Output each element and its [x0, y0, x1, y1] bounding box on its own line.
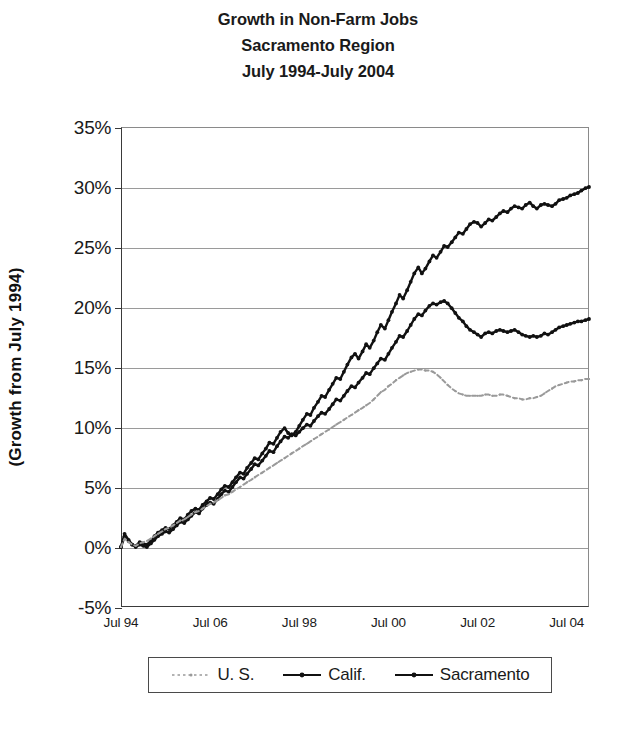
series-marker	[588, 378, 590, 380]
series-marker	[182, 521, 186, 525]
series-marker	[528, 201, 532, 205]
series-marker	[338, 399, 342, 403]
series-marker	[435, 256, 439, 260]
series-marker	[245, 466, 249, 470]
y-axis-tick-label: 30%	[74, 177, 111, 199]
series-marker	[219, 492, 223, 496]
series-marker	[424, 267, 428, 271]
series-marker	[372, 339, 376, 343]
series-marker	[272, 442, 276, 446]
series-marker	[483, 221, 487, 225]
series-marker	[517, 206, 521, 210]
series-marker	[179, 520, 181, 522]
series-marker	[524, 334, 528, 338]
series-marker	[253, 462, 257, 466]
series-marker	[387, 318, 391, 322]
legend-label: Calif.	[328, 665, 366, 685]
series-marker	[490, 332, 494, 336]
series-marker	[357, 409, 359, 411]
y-axis-title: (Growth from July 1994)	[6, 267, 26, 466]
series-marker	[502, 209, 506, 213]
series-marker	[316, 400, 320, 404]
series-marker	[208, 496, 212, 500]
series-marker	[261, 472, 263, 474]
series-marker	[551, 388, 553, 390]
series-marker	[398, 334, 402, 338]
legend-swatch-icon	[170, 669, 212, 681]
series-marker	[223, 489, 227, 493]
series-marker	[550, 204, 554, 208]
series-marker	[142, 541, 144, 543]
series-marker	[513, 397, 515, 399]
series-marker	[305, 412, 309, 416]
y-axis-tick-label: 35%	[74, 117, 111, 139]
series-marker	[357, 381, 361, 385]
series-marker	[383, 327, 387, 331]
series-marker	[394, 340, 398, 344]
series-marker	[327, 407, 331, 411]
y-axis-tick-label: 0%	[84, 537, 111, 559]
series-marker	[572, 192, 576, 196]
series-marker	[557, 326, 561, 330]
series-line-u-s	[121, 369, 589, 547]
series-marker	[268, 449, 272, 453]
series-marker	[539, 334, 543, 338]
chart-legend: U. S.Calif.Sacramento	[148, 657, 552, 693]
series-marker	[499, 394, 501, 396]
series-marker	[343, 419, 345, 421]
series-marker	[420, 314, 424, 318]
series-marker	[350, 356, 354, 360]
series-marker	[127, 541, 129, 543]
series-marker	[513, 328, 517, 332]
series-marker	[476, 333, 480, 337]
series-marker	[327, 388, 331, 392]
series-marker	[431, 254, 435, 258]
series-marker	[361, 376, 365, 380]
series-marker	[447, 384, 449, 386]
series-marker	[405, 288, 409, 292]
series-marker	[494, 215, 498, 219]
x-axis-tick-label: Jul 00	[371, 615, 406, 630]
series-marker	[483, 332, 487, 336]
series-marker	[238, 471, 242, 475]
series-marker	[543, 332, 547, 336]
series-marker	[286, 431, 290, 435]
series-marker	[286, 436, 290, 440]
series-marker	[368, 346, 372, 350]
series-marker	[536, 396, 538, 398]
series-marker	[260, 459, 264, 463]
series-marker	[342, 370, 346, 374]
series-marker	[584, 318, 588, 322]
series-marker	[334, 398, 338, 402]
series-marker	[331, 402, 335, 406]
legend-item-sacramento[interactable]: Sacramento	[393, 665, 530, 685]
series-marker	[472, 220, 476, 224]
legend-item-u-s[interactable]: U. S.	[170, 665, 254, 685]
series-marker	[584, 186, 588, 190]
series-marker	[375, 330, 379, 334]
series-marker	[272, 450, 276, 454]
series-marker	[428, 304, 432, 308]
series-marker	[342, 394, 346, 398]
series-marker	[424, 309, 428, 313]
y-axis-tick-label: 15%	[74, 357, 111, 379]
legend-swatch-icon	[393, 669, 435, 681]
series-marker	[239, 486, 241, 488]
legend-item-calif[interactable]: Calif.	[281, 665, 366, 685]
series-marker	[320, 433, 322, 435]
series-marker	[446, 245, 450, 249]
series-marker	[256, 464, 260, 468]
series-marker	[350, 414, 352, 416]
series-marker	[461, 320, 465, 324]
series-marker	[465, 324, 469, 328]
series-marker	[353, 386, 357, 390]
series-marker	[469, 395, 471, 397]
series-marker	[487, 330, 491, 334]
series-marker	[513, 204, 517, 208]
series-marker	[457, 231, 461, 235]
series-marker	[353, 352, 357, 356]
series-marker	[260, 452, 264, 456]
series-marker	[305, 423, 309, 427]
series-marker	[416, 312, 420, 316]
series-marker	[316, 414, 320, 418]
